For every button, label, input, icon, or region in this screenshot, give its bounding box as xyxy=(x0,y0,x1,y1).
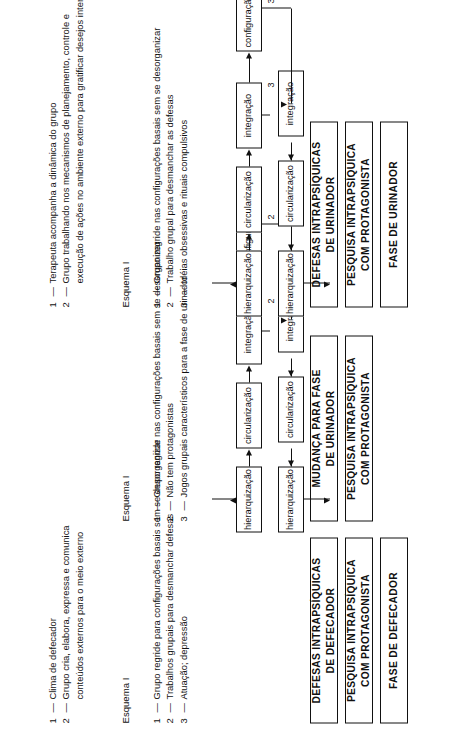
node-integração-top-1: integração xyxy=(236,82,262,148)
bar-line: COM PROTAGONISTA xyxy=(359,142,373,285)
list-number: 2 xyxy=(163,712,176,723)
list-item: 2 — Grupo cria, elabora, expressa e comu… xyxy=(59,525,72,723)
connector xyxy=(249,57,250,82)
note-fase-urinador: 1 — Terapeuta acompanha a dinâmica do gr… xyxy=(46,0,86,307)
list-text: Idéias obsessivas e rituais compulsivos xyxy=(177,119,190,283)
connector xyxy=(291,8,292,103)
bar-line: COM PROTAGONISTA xyxy=(359,356,373,499)
bar-line: DE URINADOR xyxy=(324,369,338,487)
bar-line: DEFESAS INTRAPSÍQUICAS xyxy=(310,141,324,287)
list-number: 1 xyxy=(150,712,163,723)
node-configuração-basal-top-1: configuração basal xyxy=(236,0,262,51)
list-text: execução de ações no ambiente externo pa… xyxy=(73,0,86,283)
list-item: 2 — Grupo trabalhando nos mecanismos de … xyxy=(59,0,72,307)
list-item: 1 — Clima de defecador xyxy=(46,525,59,723)
node-circularização-bottom-0: circularização xyxy=(278,376,304,442)
node-label: circularização xyxy=(285,165,296,222)
list-text: Grupo trabalhando nos mecanismos de plan… xyxy=(59,14,72,283)
list-text: Não tem protagonistas xyxy=(163,403,176,497)
arrow-down-icon xyxy=(281,101,287,107)
diagram-canvas: FASE DE DEFECADOR PESQUISA INTRAPSÍQUICA… xyxy=(0,0,450,737)
arrow-right-icon xyxy=(246,449,252,455)
list-text: Trabalho grupal para desmanchar as defes… xyxy=(163,94,176,283)
bar-fase-urinador: FASE DE URINADOR xyxy=(380,121,408,307)
note-defecador-intro: 1 — Clima de defecador 2 — Grupo cria, e… xyxy=(46,525,86,723)
list-number: 3 xyxy=(177,712,190,723)
bar-mudanca-para-fase-urinador: MUDANÇA PARA FASE DE URINADOR xyxy=(310,335,338,521)
arrow-down-icon xyxy=(324,497,330,503)
edge-label-integracao-1: 3 xyxy=(266,81,276,88)
node-hierarquização-bottom-0: hierarquização xyxy=(278,466,304,532)
list-dash: — xyxy=(177,283,190,296)
arrow-down-icon xyxy=(281,317,287,323)
note-defesas-urinador: 1 — Grupo regride nas configurações basa… xyxy=(150,27,190,307)
list-dash: — xyxy=(163,283,176,296)
list-text: conteúdos externos para o meio externo xyxy=(73,531,86,699)
arrow-right-icon xyxy=(246,365,252,371)
bar-line: FASE DE DEFECADOR xyxy=(387,572,401,689)
arrow-right-icon xyxy=(246,149,252,155)
bar-defesas-intrapsiquicas-defecador: DEFESAS INTRAPSÍQUICAS DE DEFECADOR xyxy=(310,537,338,723)
list-text: Clima de defecador xyxy=(46,618,59,699)
list-dash: — xyxy=(150,283,163,296)
bar-line: FASE DE URINADOR xyxy=(387,161,401,268)
list-number: 1 xyxy=(46,712,59,723)
bar-line: PESQUISA INTRAPSÍQUICA xyxy=(345,558,359,701)
node-label: hierarquização xyxy=(243,469,254,530)
list-number: 2 xyxy=(59,296,72,307)
edge-label-integracao-0: 2 xyxy=(266,297,276,304)
node-circularização-bottom-1: circularização xyxy=(278,160,304,226)
bar-fase-defecador: FASE DE DEFECADOR xyxy=(380,537,408,723)
list-dash xyxy=(73,283,86,296)
edge-label-basal-1: 3 xyxy=(266,0,276,4)
list-text: Jogos grupais característicos para a fas… xyxy=(177,276,190,497)
list-number: 3 xyxy=(177,510,190,521)
list-item: 1 — Terapeuta acompanha a dinâmica do gr… xyxy=(46,0,59,307)
list-number: 2 xyxy=(163,296,176,307)
arrow-left-icon xyxy=(288,370,294,376)
bar-defesas-intrapsiquicas-urinador: DEFESAS INTRAPSÍQUICAS DE URINADOR xyxy=(310,121,338,307)
list-dash xyxy=(73,699,86,712)
connector xyxy=(249,454,250,466)
connector xyxy=(249,238,250,250)
node-hierarquização-bottom-1: hierarquização xyxy=(278,250,304,316)
edge-label-basal-0: 2 xyxy=(266,213,276,220)
node-circularização-top-1: circularização xyxy=(236,166,262,232)
list-text: Grupo regride nas configurações basais s… xyxy=(150,27,163,283)
list-item: execução de ações no ambiente externo pa… xyxy=(73,0,86,307)
list-dash: — xyxy=(46,699,59,712)
node-label: hierarquização xyxy=(285,253,296,314)
bar-line: PESQUISA INTRAPSÍQUICA xyxy=(345,142,359,285)
node-label: circularização xyxy=(243,171,254,228)
list-dash: — xyxy=(59,699,72,712)
node-label: circularização xyxy=(243,387,254,444)
bar-pesquisa-intrapsiquica-urinador: PESQUISA INTRAPSÍQUICA COM PROTAGONISTA xyxy=(345,121,373,307)
arrow-up-icon xyxy=(230,281,236,287)
list-item: 1 — Grupo regride nas configurações basa… xyxy=(150,27,163,307)
arrow-left-icon xyxy=(288,244,294,250)
connector xyxy=(249,154,250,166)
bar-line: DEFESAS INTRAPSÍQUICAS xyxy=(310,557,324,703)
bar-line: PESQUISA INTRAPSÍQUICA xyxy=(345,356,359,499)
node-label: hierarquização xyxy=(243,253,254,314)
list-number: 1 xyxy=(150,510,163,521)
arrow-left-icon xyxy=(288,460,294,466)
arrow-left-icon xyxy=(288,154,294,160)
list-text: Grupo cria, elabora, expressa e comunica xyxy=(59,525,72,699)
node-hierarquização-top-0: hierarquização xyxy=(236,466,262,532)
list-number: 1 xyxy=(150,296,163,307)
arrow-down-icon xyxy=(324,281,330,287)
list-text: Terapeuta acompanha a dinâmica do grupo xyxy=(46,102,59,283)
connector xyxy=(262,7,291,8)
bar-pesquisa-intrapsiquica-defecador: PESQUISA INTRAPSÍQUICA COM PROTAGONISTA xyxy=(345,537,373,723)
bar-line: DE DEFECADOR xyxy=(324,557,338,703)
list-number: 2 xyxy=(163,510,176,521)
node-hierarquização-top-1: hierarquização xyxy=(236,250,262,316)
arrow-right-icon xyxy=(246,233,252,239)
node-label: circularização xyxy=(285,381,296,438)
bar-line: COM PROTAGONISTA xyxy=(359,558,373,701)
list-number: 2 xyxy=(59,712,72,723)
connector xyxy=(262,330,270,331)
bar-line: DE URINADOR xyxy=(324,141,338,287)
list-dash: — xyxy=(163,699,176,712)
